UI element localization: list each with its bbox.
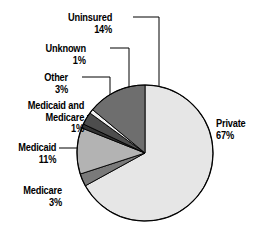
slice-label-private: Private 67% bbox=[216, 118, 246, 141]
slice-label-private-value: 67% bbox=[216, 130, 246, 142]
slice-label-unknown-name: Unknown bbox=[46, 43, 86, 55]
slice-label-uninsured-value: 14% bbox=[68, 24, 112, 36]
slice-label-medicaid-and-medicare-value: 1% bbox=[28, 123, 84, 135]
slice-label-unknown-value: 1% bbox=[46, 55, 86, 67]
pie-chart-figure: Uninsured 14% Unknown 1% Other 3% Medica… bbox=[0, 0, 258, 233]
leader-line-0 bbox=[133, 17, 159, 95]
pie-slice-group bbox=[77, 85, 213, 221]
slice-label-medicaid-value: 11% bbox=[18, 154, 56, 166]
slice-label-medicaid-name: Medicaid bbox=[18, 142, 56, 154]
slice-label-other: Other 3% bbox=[44, 72, 68, 95]
slice-label-medicaid-and-medicare-name1: Medicaid and bbox=[28, 100, 84, 112]
slice-label-other-name: Other bbox=[44, 72, 68, 84]
slice-label-medicaid-and-medicare: Medicaid and Medicare 1% bbox=[28, 100, 84, 135]
slice-label-medicare-name: Medicare bbox=[23, 185, 62, 197]
slice-label-medicare: Medicare 3% bbox=[23, 185, 62, 208]
slice-label-unknown: Unknown 1% bbox=[46, 43, 86, 66]
slice-label-medicaid: Medicaid 11% bbox=[18, 142, 56, 165]
slice-label-uninsured-name: Uninsured bbox=[68, 12, 112, 24]
slice-label-uninsured: Uninsured 14% bbox=[68, 12, 112, 35]
slice-label-other-value: 3% bbox=[44, 84, 68, 96]
slice-label-medicare-value: 3% bbox=[23, 197, 62, 209]
slice-label-private-name: Private bbox=[216, 118, 246, 130]
